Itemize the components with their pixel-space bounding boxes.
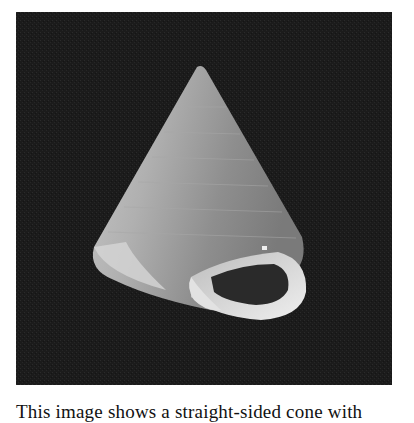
shell-illustration	[16, 12, 392, 385]
shell-photo	[16, 12, 392, 385]
figure-caption: This image shows a straight-sided cone w…	[16, 401, 362, 423]
